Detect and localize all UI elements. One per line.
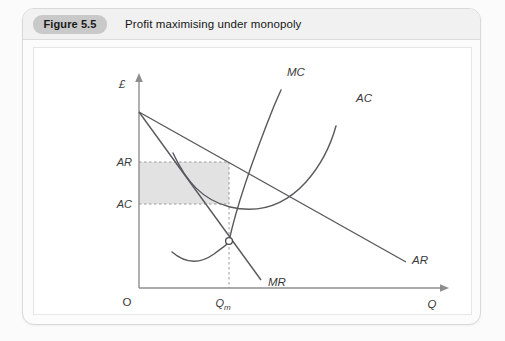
x-tick-label-qm: Qm [215, 297, 231, 312]
figure-card: Figure 5.5 Profit maximising under monop… [22, 8, 481, 325]
curve-label-ar: AR [411, 254, 428, 266]
origin-label: O [123, 296, 132, 308]
figure-number-badge: Figure 5.5 [33, 15, 107, 34]
x-axis-arrow-icon [440, 284, 449, 292]
figure-header: Figure 5.5 Profit maximising under monop… [23, 9, 480, 40]
y-axis-arrow-icon [135, 73, 143, 82]
y-tick-label-ar: AR [116, 156, 132, 168]
profit-shaded-area [139, 162, 229, 204]
curve-label-mc: MC [287, 66, 306, 78]
curve-label-mr: MR [268, 276, 286, 288]
page-root: Figure 5.5 Profit maximising under monop… [0, 0, 505, 341]
figure-title: Profit maximising under monopoly [125, 18, 301, 30]
curve-label-ac: AC [355, 92, 373, 104]
monopoly-profit-chart: £ Q O AR AC Qm MC AC AR MR [34, 48, 473, 316]
y-tick-label-ac: AC [116, 198, 132, 210]
x-tick-label-qm-subscript: m [224, 303, 231, 312]
y-axis-label: £ [118, 78, 126, 90]
chart-plot-panel: £ Q O AR AC Qm MC AC AR MR [33, 47, 472, 315]
mc-mr-intersection-marker [226, 238, 233, 245]
x-axis-label: Q [428, 298, 437, 310]
